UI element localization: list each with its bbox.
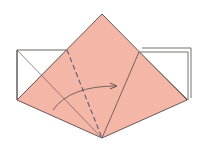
origami-diagram [0, 0, 201, 144]
